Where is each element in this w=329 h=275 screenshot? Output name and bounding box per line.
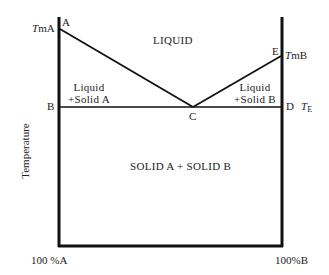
tmb-label: TmB (285, 50, 307, 61)
y-axis-label: Temperature (19, 121, 31, 181)
point-e-label: E (272, 46, 279, 57)
point-a-label: A (62, 17, 70, 28)
tma-label: TmA (32, 23, 55, 34)
region-liquid: LIQUID (153, 34, 193, 46)
region-liquid-solid-b-line1: Liquid (234, 81, 276, 93)
region-liquid-solid-b-line2: +Solid B (234, 93, 276, 105)
region-solid-a-solid-b: SOLID A + SOLID B (130, 160, 231, 172)
point-d-label: D (286, 101, 294, 112)
point-b-label: B (47, 101, 54, 112)
x-axis-right-label: 100%B (275, 255, 308, 266)
x-axis-left-label: 100 %A (31, 255, 67, 266)
point-c-label: C (189, 111, 196, 122)
te-label: TE (301, 101, 312, 114)
region-liquid-solid-a-line1: Liquid (68, 81, 110, 93)
region-liquid-solid-b: Liquid +Solid B (234, 81, 276, 105)
region-liquid-solid-a-line2: +Solid A (68, 93, 110, 105)
region-liquid-solid-a: Liquid +Solid A (68, 81, 110, 105)
